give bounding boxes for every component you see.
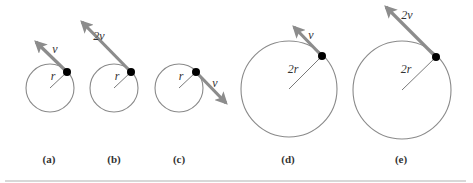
velocity-label: 2v bbox=[93, 29, 105, 43]
velocity-label: 2v bbox=[401, 8, 413, 22]
particle-dot bbox=[127, 68, 135, 76]
panel-b: r2v(b) bbox=[82, 22, 138, 166]
panel-d: 2rv(d) bbox=[241, 27, 337, 166]
radius-label: 2r bbox=[401, 62, 412, 76]
radius-label: 2r bbox=[288, 62, 299, 76]
radius-label: r bbox=[115, 69, 120, 83]
panel-caption: (a) bbox=[43, 153, 56, 166]
particle-dot bbox=[432, 53, 440, 61]
panel-caption: (c) bbox=[173, 153, 186, 166]
radius-label: r bbox=[179, 69, 184, 83]
panel-caption: (e) bbox=[395, 153, 408, 166]
particle-dot bbox=[192, 68, 200, 76]
velocity-label: v bbox=[212, 76, 218, 90]
velocity-label: v bbox=[52, 42, 58, 56]
panel-e: 2r2v(e) bbox=[353, 7, 451, 166]
particle-dot bbox=[318, 52, 326, 60]
panel-caption: (d) bbox=[281, 153, 295, 166]
panel-a: rv(a) bbox=[26, 42, 74, 166]
panel-c: rv(c) bbox=[155, 64, 226, 166]
velocity-arrow-icon bbox=[82, 22, 131, 72]
velocity-label: v bbox=[308, 28, 314, 42]
circular-motion-diagram: rv(a)r2v(b)rv(c)2rv(d)2r2v(e) bbox=[0, 0, 473, 183]
panel-caption: (b) bbox=[107, 153, 121, 166]
radius-label: r bbox=[51, 69, 56, 83]
particle-dot bbox=[63, 68, 71, 76]
